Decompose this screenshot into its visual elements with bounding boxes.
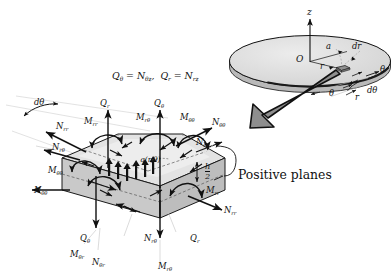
label-top-Mrtheta: Mrθ	[136, 113, 150, 121]
dtheta-label-disk: dθ	[367, 86, 377, 94]
label-top-Mrr: Mrr	[84, 117, 97, 125]
distributed-load-label: q(r,θ)	[140, 156, 161, 164]
figure-canvas: Qθ = Nθz, Qr = Nrz z O a dr r θ θ r dθ d…	[0, 0, 391, 274]
label-bot-Qr: Qr	[190, 234, 199, 242]
thickness-numerator: h	[205, 162, 210, 171]
label-right-Mrr: Mrr	[206, 186, 219, 194]
theta-label-lower: θ	[329, 89, 334, 97]
label-right-Nrtheta: Nrθ	[196, 138, 209, 146]
label-top-Mthetatheta: Mθθ	[180, 113, 195, 121]
label-left-Mthetatheta: Mθθ	[48, 166, 63, 174]
label-bot-Nrtheta: Nrθ	[144, 234, 157, 242]
positive-planes-caption: Positive planes	[238, 169, 332, 181]
theta-label-rim: θ	[380, 65, 385, 73]
r-label-lower: r	[355, 93, 359, 101]
z-axis-label: z	[307, 8, 312, 17]
label-bot-Mthetar: Mθr	[70, 250, 84, 258]
resultant-relation-equation: Qθ = Nθz, Qr = Nrz	[112, 71, 198, 81]
disk-radius-label: a	[326, 42, 331, 50]
label-left-Nthetatheta: Nθθ	[34, 186, 47, 194]
label-right-Nrr: Nrr	[224, 206, 236, 214]
label-bot-Nthetar: Nθr	[92, 258, 105, 266]
dr-label: dr	[352, 42, 361, 50]
r-label: r	[320, 62, 324, 70]
label-top-Qr: Qr	[100, 99, 109, 107]
disk-group	[230, 19, 391, 128]
label-left-Nrr: Nrr	[56, 122, 68, 130]
equation-q-theta: Q	[112, 70, 120, 81]
equation-q-r: Q	[160, 70, 168, 81]
thickness-denominator: 2	[205, 171, 210, 181]
element-group	[0, 0, 236, 262]
origin-label: O	[296, 55, 303, 64]
label-bot-Mrtheta: Mrθ	[158, 262, 172, 270]
thickness-fraction-label: h 2	[205, 162, 210, 180]
label-top-Qtheta: Qθ	[154, 99, 164, 107]
label-bot-Qtheta: Qθ	[80, 234, 90, 242]
label-left-Nrtheta: Nrθ	[52, 143, 65, 151]
label-top-Nthetatheta: Nθθ	[212, 118, 225, 126]
dtheta-arc-label: dθ	[34, 98, 44, 106]
